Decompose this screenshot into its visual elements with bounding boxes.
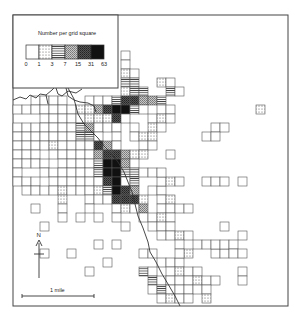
grid-cell bbox=[103, 177, 112, 186]
grid-cell bbox=[157, 78, 166, 87]
grid-cell bbox=[121, 105, 130, 114]
grid-cell bbox=[157, 204, 166, 213]
grid-cell bbox=[238, 249, 247, 258]
grid-cell bbox=[67, 123, 76, 132]
grid-cell bbox=[58, 204, 67, 213]
grid-cell bbox=[139, 150, 148, 159]
grid-cell bbox=[58, 123, 67, 132]
grid-cell bbox=[220, 222, 229, 231]
grid-cell bbox=[157, 195, 166, 204]
grid-cell bbox=[49, 123, 58, 132]
grid-cell bbox=[103, 159, 112, 168]
grid-cell bbox=[121, 222, 130, 231]
grid-cell bbox=[112, 105, 121, 114]
grid-cell bbox=[175, 177, 184, 186]
grid-cell bbox=[67, 168, 76, 177]
grid-cell bbox=[166, 204, 175, 213]
legend-swatch bbox=[65, 45, 78, 59]
grid-cell bbox=[58, 159, 67, 168]
grid-cell bbox=[175, 276, 184, 285]
grid-cell bbox=[76, 150, 85, 159]
grid-cell bbox=[94, 195, 103, 204]
grid-cell bbox=[193, 267, 202, 276]
grid-cell bbox=[85, 123, 94, 132]
grid-cell bbox=[112, 240, 121, 249]
grid-cell bbox=[166, 150, 175, 159]
grid-cell bbox=[130, 132, 139, 141]
grid-cell bbox=[184, 276, 193, 285]
grid-cell bbox=[22, 132, 31, 141]
grid-cell bbox=[130, 96, 139, 105]
grid-cell bbox=[22, 159, 31, 168]
grid-cell bbox=[67, 159, 76, 168]
grid-cell bbox=[58, 177, 67, 186]
grid-cell bbox=[103, 258, 112, 267]
grid-cell bbox=[40, 114, 49, 123]
grid-cell bbox=[157, 231, 166, 240]
grid-cell bbox=[211, 276, 220, 285]
grid-cell bbox=[121, 78, 130, 87]
grid-cell bbox=[202, 132, 211, 141]
grid-cell bbox=[157, 105, 166, 114]
grid-cell bbox=[40, 132, 49, 141]
grid-cell bbox=[238, 276, 247, 285]
density-map: Number per grid square 0137153163 N 1 mi… bbox=[0, 0, 300, 316]
grid-cell bbox=[85, 195, 94, 204]
legend-swatch bbox=[26, 45, 39, 59]
grid-cell bbox=[94, 114, 103, 123]
grid-cell bbox=[130, 177, 139, 186]
grid-cell bbox=[103, 150, 112, 159]
grid-cell bbox=[94, 177, 103, 186]
grid-cell bbox=[202, 276, 211, 285]
grid-cell bbox=[121, 60, 130, 69]
grid-cell bbox=[112, 204, 121, 213]
grid-cell bbox=[139, 141, 148, 150]
grid-cell bbox=[130, 168, 139, 177]
grid-cell bbox=[94, 240, 103, 249]
grid-cell bbox=[76, 141, 85, 150]
grid-cell bbox=[31, 204, 40, 213]
grid-cell bbox=[85, 132, 94, 141]
grid-cell bbox=[22, 123, 31, 132]
grid-cell bbox=[85, 204, 94, 213]
grid-cell bbox=[139, 168, 148, 177]
grid-cell bbox=[85, 114, 94, 123]
grid-cell bbox=[157, 258, 166, 267]
grid-cell bbox=[130, 123, 139, 132]
grid-cell bbox=[121, 114, 130, 123]
grid-cell bbox=[121, 51, 130, 60]
grid-cell bbox=[103, 96, 112, 105]
grid-cell bbox=[49, 141, 58, 150]
grid-cell bbox=[166, 195, 175, 204]
grid-cell bbox=[76, 186, 85, 195]
grid-cell bbox=[166, 105, 175, 114]
legend-title: Number per grid square bbox=[38, 30, 96, 36]
grid-cell bbox=[13, 141, 22, 150]
grid-cell bbox=[58, 186, 67, 195]
legend-tick-label: 63 bbox=[101, 61, 107, 67]
grid-cell bbox=[157, 285, 166, 294]
grid-cell bbox=[121, 195, 130, 204]
grid-cell bbox=[40, 168, 49, 177]
grid-cell bbox=[31, 132, 40, 141]
legend-tick-label: 15 bbox=[75, 61, 81, 67]
grid-cell bbox=[166, 267, 175, 276]
grid-cell bbox=[184, 204, 193, 213]
grid-cell bbox=[166, 213, 175, 222]
grid-cell bbox=[148, 213, 157, 222]
grid-cell bbox=[49, 168, 58, 177]
grid-cell bbox=[94, 186, 103, 195]
grid-cell bbox=[175, 258, 184, 267]
grid-cell bbox=[112, 123, 121, 132]
grid-cell bbox=[166, 258, 175, 267]
grid-cell bbox=[94, 96, 103, 105]
grid-cell bbox=[31, 105, 40, 114]
grid-cell bbox=[40, 159, 49, 168]
grid-cell bbox=[184, 231, 193, 240]
legend-tick-label: 31 bbox=[88, 61, 94, 67]
grid-cell bbox=[31, 186, 40, 195]
grid-cell bbox=[94, 213, 103, 222]
grid-cell bbox=[67, 150, 76, 159]
grid-cell bbox=[67, 141, 76, 150]
grid-cell bbox=[202, 240, 211, 249]
